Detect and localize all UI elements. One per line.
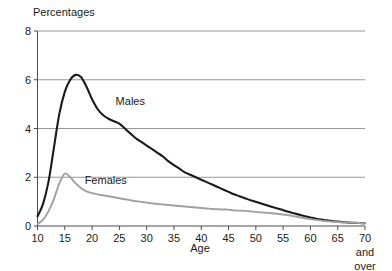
y-tick-label-4: 4 <box>25 123 31 135</box>
y-tick-label-2: 2 <box>25 171 31 183</box>
x-tick-label-65: 65 <box>332 232 344 244</box>
x-tick-label-extra-and: and <box>356 246 374 258</box>
y-axis-title: Percentages <box>33 6 95 18</box>
x-tick-label-35: 35 <box>168 232 180 244</box>
y-tick-label-8: 8 <box>25 25 31 37</box>
x-tick-label-30: 30 <box>141 232 153 244</box>
series-label-females: Females <box>85 174 128 186</box>
chart-container: Percentages Age 02468 101520253035404550… <box>0 0 392 271</box>
x-tick-label-25: 25 <box>113 232 125 244</box>
x-tick-label-50: 50 <box>250 232 262 244</box>
y-tick-label-0: 0 <box>25 220 31 232</box>
x-tick-label-10: 10 <box>31 232 43 244</box>
x-tick-label-15: 15 <box>59 232 71 244</box>
x-tick-label-45: 45 <box>222 232 234 244</box>
x-tick-label-55: 55 <box>277 232 289 244</box>
line-chart: Percentages Age 02468 101520253035404550… <box>0 0 392 271</box>
x-tick-label-20: 20 <box>86 232 98 244</box>
y-tick-label-6: 6 <box>25 74 31 86</box>
x-tick-label-extra-over: over <box>354 260 376 271</box>
x-tick-label-70: 70 <box>359 232 371 244</box>
series-label-males: Males <box>116 95 146 107</box>
x-tick-label-40: 40 <box>195 232 207 244</box>
x-tick-label-60: 60 <box>304 232 316 244</box>
chart-background <box>0 0 392 271</box>
